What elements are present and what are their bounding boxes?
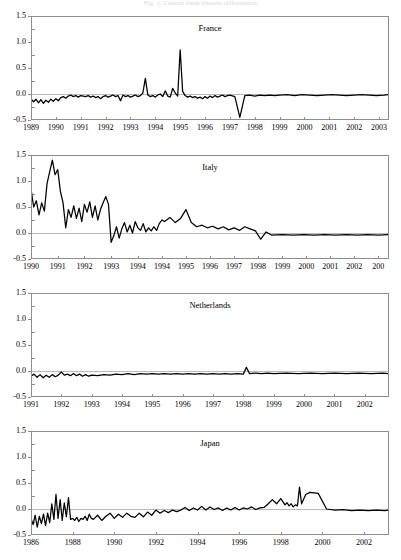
y-tick-mark-japan-4 <box>28 535 31 536</box>
x-tick-label-japan-5: 1996 <box>231 538 247 547</box>
y-tick-label-japan-1: 1.0 <box>0 453 26 461</box>
figure-multi-panel-timeseries: Fig. 1. Central bank interest differenti… <box>0 0 401 560</box>
series-clip-japan <box>32 432 388 534</box>
x-tick-label-japan-4: 1994 <box>190 538 206 547</box>
x-tick-label-japan-1: 1988 <box>65 538 81 547</box>
x-tick-label-japan-2: 1990 <box>106 538 122 547</box>
y-tick-mark-japan-2 <box>28 483 31 484</box>
x-tick-label-japan-7: 2000 <box>314 538 330 547</box>
x-tick-label-japan-8: 2002 <box>356 538 372 547</box>
y-tick-label-japan-2: 0.5 <box>0 479 26 487</box>
y-tick-label-japan-3: 0.0 <box>0 505 26 513</box>
y-tick-mark-japan-3 <box>28 509 31 510</box>
series-line-japan <box>32 487 388 527</box>
chart-panel-japan: 1.51.00.50.0-0.5Japan1986198819901992199… <box>0 0 401 560</box>
y-tick-mark-japan-0 <box>28 431 31 432</box>
x-tick-label-japan-0: 1986 <box>23 538 39 547</box>
y-tick-mark-japan-1 <box>28 457 31 458</box>
series-svg-japan <box>32 432 388 534</box>
x-tick-label-japan-3: 1992 <box>148 538 164 547</box>
y-tick-label-japan-0: 1.5 <box>0 427 26 435</box>
x-tick-label-japan-6: 1998 <box>273 538 289 547</box>
